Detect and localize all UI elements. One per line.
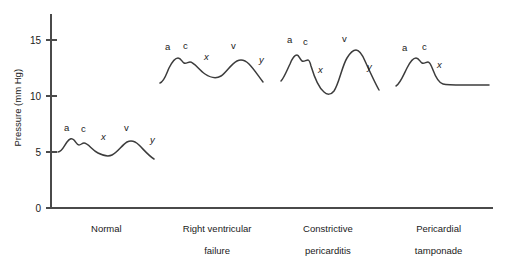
waveform-pericardial-tamponade-trace [396, 58, 489, 86]
wave-label-cp-y: y [366, 61, 373, 72]
wave-label-rvf-v: v [231, 40, 236, 51]
y-tick-label-15: 15 [30, 35, 42, 46]
wave-label-cp-v: v [342, 33, 347, 44]
waveform-rv-failure-trace [160, 58, 263, 83]
wave-label-pt-a: a [402, 42, 408, 53]
wave-label-rvf-y: y [258, 54, 265, 65]
category-label-rvf-line1: Right ventricular [162, 223, 273, 234]
wave-label-rvf-a: a [165, 41, 171, 52]
waveform-constrictive-pericarditis-trace [281, 50, 379, 94]
category-label-normal-line1: Normal [51, 223, 162, 234]
category-label-cp-line2: pericarditis [273, 245, 384, 256]
y-axis-tick-labels: 15 10 5 0 [30, 35, 42, 214]
category-label-pt-line1: Pericardial [383, 223, 494, 234]
y-axis-title: Pressure (mm Hg) [13, 43, 23, 173]
category-label-pt-line2: tamponade [383, 245, 494, 256]
wave-label-normal-x: x [100, 131, 107, 142]
wave-label-normal-y: y [149, 134, 156, 145]
waveform-right-ventricular-failure: a c x v y [160, 40, 265, 83]
wave-label-normal-a: a [64, 122, 70, 133]
category-label-right-ventricular-failure: Right ventricular failure [162, 212, 273, 260]
y-tick-label-0: 0 [35, 203, 41, 214]
wave-label-cp-c: c [303, 36, 308, 47]
category-label-rvf-line2: failure [162, 245, 273, 256]
wave-label-cp-a: a [287, 34, 293, 45]
category-label-pericardial-tamponade: Pericardial tamponade [383, 212, 494, 260]
wave-label-normal-c: c [81, 123, 86, 134]
wave-label-normal-v: v [124, 122, 129, 133]
y-tick-label-5: 5 [35, 147, 41, 158]
wave-label-pt-c: c [422, 41, 427, 52]
waveform-pericardial-tamponade: a c x [396, 41, 489, 86]
category-label-normal: Normal [51, 212, 162, 260]
wave-label-rvf-x: x [203, 51, 210, 62]
x-axis-category-labels: Normal Right ventricular failure Constri… [51, 212, 494, 260]
wave-label-rvf-c: c [183, 40, 188, 51]
waveform-constrictive-pericarditis: a c x v y [281, 33, 379, 94]
category-label-constrictive-pericarditis: Constrictive pericarditis [273, 212, 384, 260]
wave-label-cp-x: x [317, 64, 324, 75]
waveform-normal: a c x v y [58, 122, 156, 159]
category-label-cp-line1: Constrictive [273, 223, 384, 234]
waveform-normal-trace [58, 139, 154, 159]
y-tick-label-10: 10 [30, 91, 42, 102]
wave-label-pt-x: x [436, 59, 443, 70]
